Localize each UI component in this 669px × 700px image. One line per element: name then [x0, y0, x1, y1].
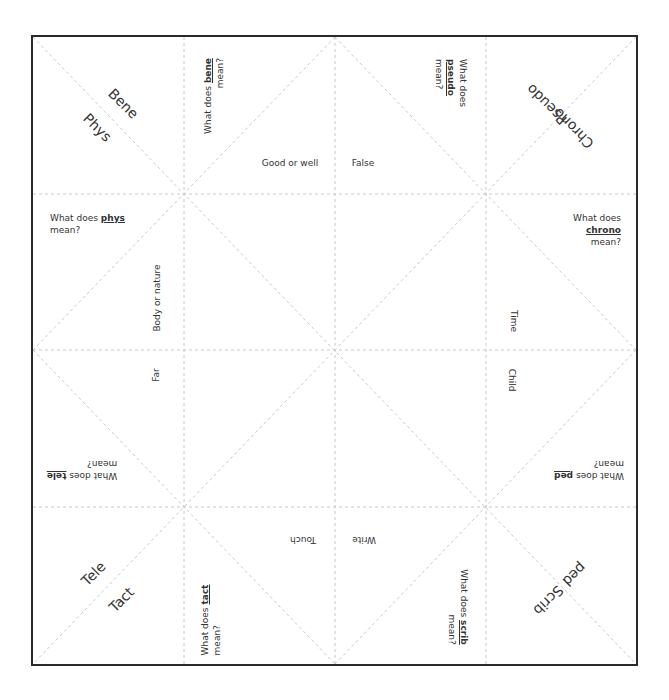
question-tact: What does tact mean? [199, 585, 223, 656]
answer-scrib: Write [352, 533, 376, 544]
answer-phys: Body or nature [152, 264, 163, 331]
question-tele: What does tele mean? [47, 458, 117, 482]
fortune-teller-paper [31, 35, 638, 666]
question-pseudo: What does pseudo mean? [433, 59, 469, 107]
question-bene: What does bene mean? [202, 58, 226, 134]
question-phys: What does phys mean? [50, 212, 125, 236]
answer-bene: Good or well [262, 158, 319, 169]
question-scrib: What does scrib mean? [446, 569, 470, 645]
question-chrono: What does chrono mean? [573, 212, 621, 248]
answer-tele: Far [151, 368, 162, 382]
answer-chrono: Time [507, 310, 518, 332]
answer-ped: Child [505, 369, 516, 392]
answer-tact: Touch [290, 533, 316, 544]
answer-pseudo: False [352, 158, 375, 169]
question-ped: What does ped mean? [554, 458, 624, 482]
